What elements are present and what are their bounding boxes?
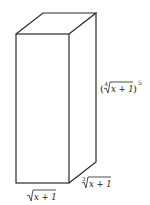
width-label: x + 1 bbox=[27, 190, 57, 202]
height-label: ( 4 x + 1 ) 5 bbox=[100, 79, 142, 94]
prism-diagram: ( 4 x + 1 ) 5 3 x + 1 x + 1 bbox=[0, 0, 150, 205]
exponent: 5 bbox=[138, 79, 142, 86]
close-paren: ) bbox=[133, 83, 137, 94]
top-face bbox=[16, 13, 96, 34]
prism-edges bbox=[16, 13, 96, 183]
front-face bbox=[16, 34, 69, 183]
depth-label: 3 x + 1 bbox=[82, 176, 112, 189]
radicand: x + 1 bbox=[34, 192, 57, 202]
right-face bbox=[69, 13, 96, 183]
root-index: 4 bbox=[105, 81, 109, 87]
root-index: 3 bbox=[82, 176, 86, 182]
radicand: x + 1 bbox=[89, 179, 112, 189]
open-paren: ( bbox=[100, 83, 104, 94]
radicand: x + 1 bbox=[111, 84, 134, 94]
